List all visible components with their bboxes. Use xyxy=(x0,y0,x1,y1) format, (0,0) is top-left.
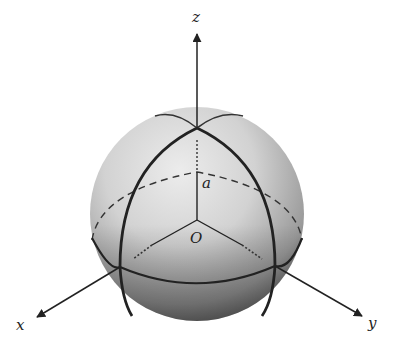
y-axis-label: y xyxy=(367,314,377,332)
radius-label: a xyxy=(202,174,211,192)
z-axis-label: z xyxy=(191,8,200,26)
x-axis-label: x xyxy=(16,316,25,334)
y-axis xyxy=(275,266,362,316)
sphere-diagram: z x y a O xyxy=(0,0,402,344)
origin-label: O xyxy=(190,229,202,247)
x-axis xyxy=(37,267,120,317)
